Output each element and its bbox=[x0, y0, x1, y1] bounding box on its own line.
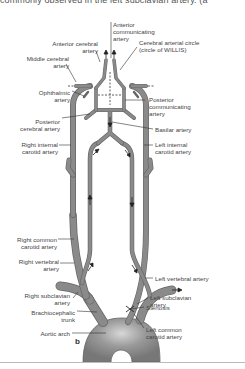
label-line: artery bbox=[44, 47, 98, 54]
label-aortic-arch: Aortic arch bbox=[2, 330, 70, 337]
label-brachiocephalic-trunk: Brachiocephalic trunk bbox=[2, 309, 75, 323]
label-line: Anterior cerebral bbox=[44, 40, 98, 47]
label-posterior-cerebral-artery: Posterior cerebral artery bbox=[2, 118, 60, 132]
label-line: Aortic arch bbox=[2, 330, 70, 337]
label-line: Brachiocephalic bbox=[2, 309, 75, 316]
label-line: artery bbox=[2, 265, 59, 272]
label-line: artery bbox=[2, 299, 70, 306]
label-line: artery bbox=[20, 96, 70, 103]
label-line: trunk bbox=[2, 316, 75, 323]
label-line: Right internal bbox=[2, 141, 58, 148]
label-line: carotid artery bbox=[2, 148, 58, 155]
label-right-internal-carotid-artery: Right internal carotid artery bbox=[2, 141, 58, 155]
label-posterior-communicating-artery: Posterior communicating artery bbox=[149, 96, 191, 117]
label-ophthalmic-artery: Ophthalmic artery bbox=[20, 89, 70, 103]
label-stenosis: Stenosis bbox=[146, 304, 170, 311]
label-middle-cerebral-artery: Middle cerebral artery bbox=[14, 55, 69, 69]
label-line: Stenosis bbox=[146, 304, 170, 311]
label-line: Right common bbox=[2, 236, 57, 243]
label-line: Left subclavian bbox=[150, 294, 191, 301]
label-cerebral-arterial-circle: Cerebral arterial circle (circle of WILL… bbox=[139, 39, 200, 53]
label-line: Right vertebral bbox=[2, 258, 59, 265]
label-line: Left vertebral artery bbox=[155, 275, 209, 282]
label-line: communicating bbox=[149, 103, 191, 110]
label-line: carotid artery bbox=[146, 333, 182, 340]
label-right-common-carotid-artery: Right common carotid artery bbox=[2, 236, 57, 250]
panel-label: b bbox=[75, 337, 80, 346]
label-line: communicating bbox=[113, 28, 155, 35]
label-right-vertebral-artery: Right vertebral artery bbox=[2, 258, 59, 272]
label-line: Posterior bbox=[2, 118, 60, 125]
label-left-internal-carotid-artery: Left internal carotid artery bbox=[155, 141, 191, 155]
divider bbox=[0, 362, 245, 363]
label-line: Right subclavian bbox=[2, 292, 70, 299]
label-line: (circle of WILLIS) bbox=[139, 46, 200, 53]
label-line: Basilar artery bbox=[155, 126, 191, 133]
label-line: cerebral artery bbox=[2, 125, 60, 132]
label-line: Cerebral arterial circle bbox=[139, 39, 200, 46]
label-anterior-cerebral-artery: Anterior cerebral artery bbox=[44, 40, 98, 54]
aortic-arch-shape bbox=[83, 318, 160, 362]
label-line: carotid artery bbox=[2, 243, 57, 250]
label-line: Ophthalmic bbox=[20, 89, 70, 96]
label-basilar-artery: Basilar artery bbox=[155, 126, 191, 133]
label-line: artery bbox=[14, 62, 69, 69]
label-right-subclavian-artery: Right subclavian artery bbox=[2, 292, 70, 306]
label-left-vertebral-artery: Left vertebral artery bbox=[155, 275, 209, 282]
label-line: Posterior bbox=[149, 96, 191, 103]
label-line: Anterior bbox=[113, 21, 155, 28]
label-line: Left common bbox=[146, 326, 182, 333]
label-line: Middle cerebral bbox=[14, 55, 69, 62]
label-left-common-carotid-artery: Left common carotid artery bbox=[146, 326, 182, 340]
label-line: carotid artery bbox=[155, 148, 191, 155]
label-line: Left internal bbox=[155, 141, 191, 148]
label-line: artery bbox=[149, 110, 191, 117]
